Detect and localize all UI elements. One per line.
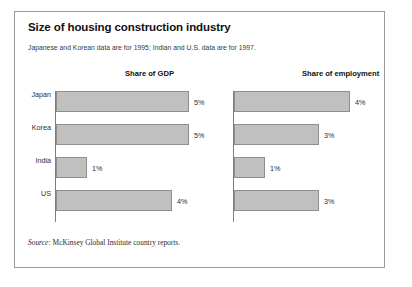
value-label-gdp-japan: 5%: [194, 97, 204, 106]
value-label-employment-us: 3%: [324, 196, 334, 205]
bar-gdp-us: [56, 190, 172, 211]
category-label-japan: Japan: [31, 91, 51, 98]
value-label-employment-japan: 4%: [355, 97, 365, 106]
value-label-employment-korea: 3%: [324, 130, 334, 139]
panel-title-employment: Share of employment: [302, 69, 379, 78]
source-label: Source:: [28, 238, 51, 247]
category-label-korea: Korea: [32, 124, 51, 131]
source-value: McKinsey Global Institute country report…: [53, 238, 180, 247]
source-note: Source: McKinsey Global Institute countr…: [28, 238, 180, 247]
bar-employment-us: [234, 190, 319, 211]
bar-employment-japan: [234, 91, 350, 112]
bar-gdp-korea: [56, 124, 189, 145]
bar-employment-korea: [234, 124, 319, 145]
exhibit-frame: Size of housing construction industry Ja…: [14, 11, 385, 268]
value-label-employment-india: 1%: [270, 163, 280, 172]
value-label-gdp-us: 4%: [177, 196, 187, 205]
bar-gdp-japan: [56, 91, 189, 112]
value-label-gdp-india: 1%: [92, 163, 102, 172]
category-label-india: India: [35, 157, 51, 164]
category-label-us: US: [41, 190, 51, 197]
bar-employment-india: [234, 157, 265, 178]
exhibit-note: Japanese and Korean data are for 1995; I…: [28, 44, 256, 51]
value-label-gdp-korea: 5%: [194, 130, 204, 139]
chart-panel-gdp: Japan 5% Korea 5% India 1% US 4%: [55, 91, 230, 222]
chart-panel-employment: 4% 3% 1% 3%: [233, 91, 398, 222]
page-title: Size of housing construction industry: [28, 21, 231, 33]
bar-gdp-india: [56, 157, 87, 178]
panel-title-gdp: Share of GDP: [125, 69, 174, 78]
